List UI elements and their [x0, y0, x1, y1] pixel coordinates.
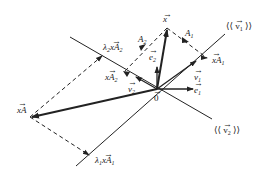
- svg-text:→: →: [104, 149, 113, 159]
- dash-xA-to-lambda2: [30, 56, 102, 117]
- v1-vector: [157, 61, 196, 89]
- label-A2: A2: [137, 34, 147, 45]
- svg-text:→: →: [108, 65, 117, 75]
- svg-text:→: →: [194, 78, 203, 88]
- x-vector: [157, 30, 167, 89]
- arrow-over-x: →: [163, 9, 172, 19]
- xA-vector: [32, 89, 157, 117]
- svg-text:→: →: [112, 36, 121, 46]
- svg-text:→: →: [235, 15, 244, 25]
- eigen-diagram: x → A1 A2 xA1 xA2 λ2xA2 λ1xA1 xA v1 v2 e…: [0, 0, 268, 180]
- svg-text:→: →: [194, 65, 203, 75]
- diagram-canvas: x → A1 A2 xA1 xA2 λ2xA2 λ1xA1 xA v1 v2 e…: [0, 0, 268, 180]
- svg-text:→: →: [223, 119, 232, 129]
- svg-text:→: →: [153, 86, 162, 96]
- svg-text:→: →: [212, 48, 221, 58]
- dash-xA-to-lambda1: [30, 117, 89, 155]
- svg-text:→: →: [149, 45, 158, 55]
- label-A1: A1: [184, 28, 194, 39]
- svg-text:→: →: [18, 98, 27, 108]
- svg-text:→: →: [128, 77, 137, 87]
